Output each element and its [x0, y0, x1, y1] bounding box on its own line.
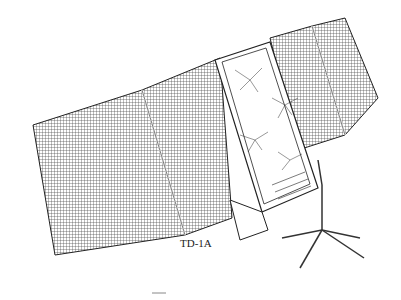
left-solar-panel [33, 58, 232, 255]
caption: TD-1A [180, 237, 212, 249]
faint-mark [152, 290, 174, 294]
satellite-drawing [0, 0, 401, 300]
illustration: TD-1A [0, 0, 401, 300]
